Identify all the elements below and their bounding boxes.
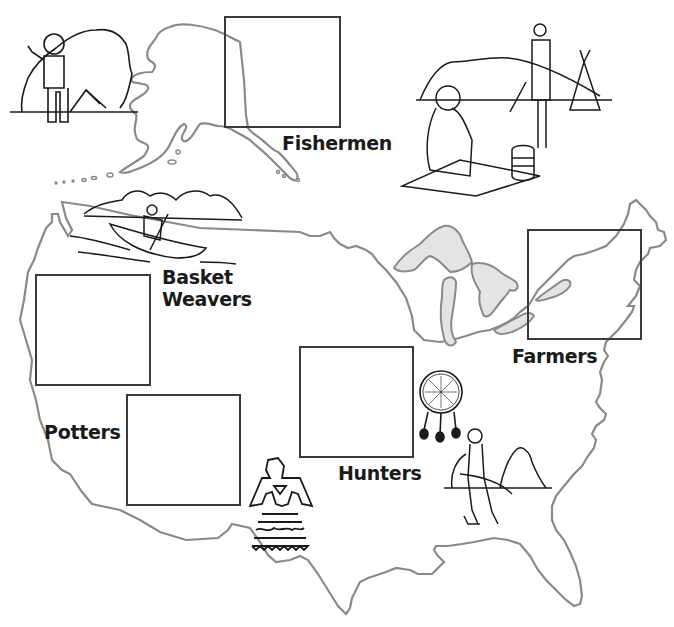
basket-weavers-label-line-2: Weavers	[162, 288, 252, 310]
lake-superior	[394, 226, 472, 272]
hunters-answer-box[interactable]	[299, 346, 414, 458]
plains-illustration	[402, 24, 612, 196]
hunters-label: Hunters	[338, 462, 422, 484]
potters-label: Potters	[44, 421, 121, 443]
map-worksheet: Fishermen Basket Weavers Potters Hunters…	[0, 0, 674, 627]
lake-huron	[472, 263, 518, 316]
dreamcatcher-symbol	[420, 371, 462, 442]
basket-weavers-label-line-1: Basket	[162, 266, 252, 288]
farmers-label: Farmers	[512, 345, 597, 367]
inuit-illustration	[10, 30, 138, 122]
lake-michigan	[441, 277, 456, 345]
basket-weavers-answer-box[interactable]	[35, 274, 151, 386]
aleutian-islands	[55, 150, 300, 184]
farmers-answer-box[interactable]	[527, 229, 642, 340]
fishermen-label: Fishermen	[282, 132, 392, 154]
fishermen-answer-box[interactable]	[224, 16, 341, 128]
potters-answer-box[interactable]	[126, 394, 241, 506]
basket-weavers-label: Basket Weavers	[162, 266, 252, 310]
